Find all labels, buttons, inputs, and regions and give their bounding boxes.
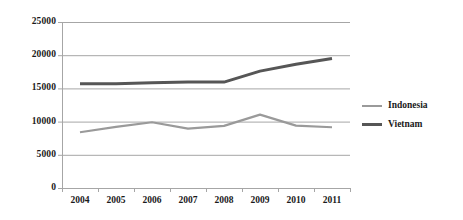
series-line-indonesia [80,115,332,133]
line-chart: 0500010000150002000025000 20042005200620… [0,0,463,220]
x-axis-tick-label: 2005 [107,196,126,206]
data-series-lines [80,59,332,133]
legend-color-swatch [362,123,382,126]
x-axis-tick-label: 2006 [143,196,162,206]
x-axis-tick-label: 2004 [71,196,90,206]
legend-item-label: Indonesia [388,101,428,111]
x-axis-tick-labels: 20042005200620072008200920102011 [62,196,350,214]
chart-legend: IndonesiaVietnam [362,96,460,134]
y-axis-tick-marks [58,23,62,189]
legend-item: Indonesia [362,96,460,115]
legend-color-swatch [362,105,382,107]
legend-item: Vietnam [362,115,460,134]
x-axis-tick-label: 2010 [287,196,306,206]
x-axis-tick-label: 2011 [323,196,341,206]
gridlines [62,23,350,189]
x-axis-tick-label: 2009 [251,196,270,206]
series-line-vietnam [80,59,332,84]
x-axis-tick-label: 2007 [179,196,198,206]
axis-lines [62,22,350,189]
legend-item-label: Vietnam [388,120,422,130]
x-axis-tick-label: 2008 [215,196,234,206]
